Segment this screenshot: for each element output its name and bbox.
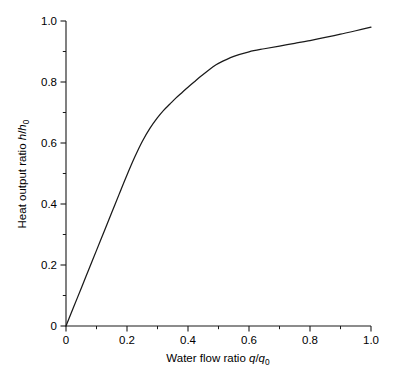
y-tick-label: 0.6 — [41, 137, 57, 149]
x-tick-label: 0.6 — [241, 334, 257, 346]
x-tick-label: 0.4 — [180, 334, 197, 346]
x-tick-label: 0 — [63, 334, 69, 346]
chart-background — [0, 0, 395, 377]
y-tick-label: 0.4 — [41, 198, 58, 210]
x-tick-label: 1.0 — [363, 334, 379, 346]
y-tick-label: 0.2 — [41, 259, 57, 271]
x-tick-label: 0.2 — [119, 334, 135, 346]
y-tick-label: 0 — [51, 320, 57, 332]
line-chart: 00.20.40.60.81.0 00.20.40.60.81.0 Water … — [0, 0, 395, 377]
y-tick-label: 0.8 — [41, 76, 57, 88]
figure-container: 00.20.40.60.81.0 00.20.40.60.81.0 Water … — [0, 0, 395, 377]
y-tick-label: 1.0 — [41, 15, 57, 27]
x-tick-label: 0.8 — [302, 334, 318, 346]
